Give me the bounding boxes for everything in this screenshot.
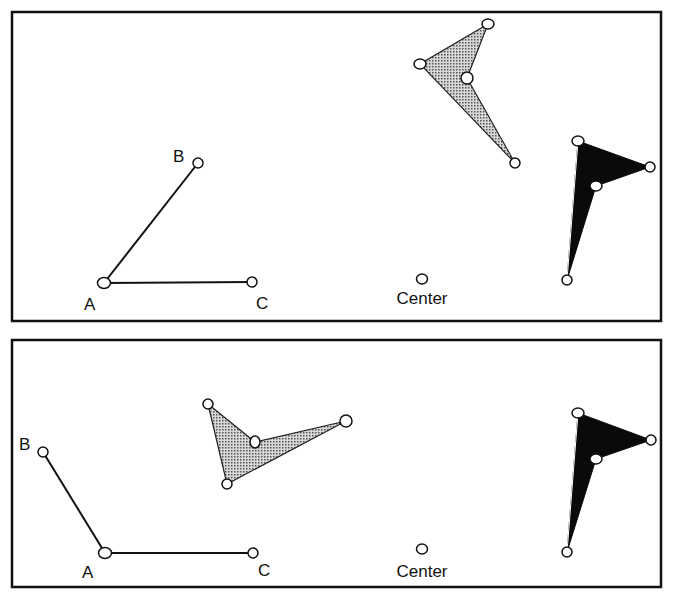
gray-vertex[interactable] — [222, 479, 232, 489]
gray-shape[interactable] — [208, 404, 346, 484]
black-vertex[interactable] — [572, 408, 584, 418]
point-B[interactable] — [38, 447, 48, 457]
label-C: C — [258, 561, 270, 580]
label-A: A — [84, 295, 96, 314]
black-shape[interactable] — [567, 141, 650, 280]
rotation-diagram: A B C Center A B C — [0, 0, 673, 597]
point-A[interactable] — [98, 278, 111, 289]
ray-AC — [104, 282, 252, 283]
bottom-panel: A B C Center — [12, 340, 661, 587]
point-C[interactable] — [247, 277, 257, 287]
gray-vertex[interactable] — [340, 415, 352, 427]
black-shape[interactable] — [567, 413, 651, 552]
gray-vertex[interactable] — [482, 19, 494, 29]
point-A[interactable] — [99, 548, 112, 559]
point-C[interactable] — [248, 548, 258, 558]
gray-vertex[interactable] — [414, 59, 426, 69]
black-vertex[interactable] — [572, 136, 584, 146]
black-vertex[interactable] — [645, 162, 655, 172]
ray-AB — [43, 452, 105, 553]
label-C: C — [256, 294, 268, 313]
black-vertex[interactable] — [562, 547, 572, 557]
black-vertex[interactable] — [590, 181, 602, 191]
ray-AB — [104, 163, 198, 283]
label-A: A — [82, 563, 94, 582]
center-point[interactable] — [417, 544, 428, 554]
center-point[interactable] — [417, 274, 428, 284]
black-vertex[interactable] — [646, 435, 656, 445]
gray-vertex[interactable] — [510, 158, 520, 168]
gray-vertex[interactable] — [203, 399, 213, 409]
label-B: B — [19, 435, 30, 454]
gray-vertex[interactable] — [250, 436, 260, 448]
gray-shape[interactable] — [420, 24, 515, 163]
black-vertex[interactable] — [562, 275, 572, 285]
center-label: Center — [396, 289, 447, 308]
top-panel: A B C Center — [12, 12, 661, 321]
gray-vertex[interactable] — [461, 72, 473, 84]
label-B: B — [173, 147, 184, 166]
black-vertex[interactable] — [590, 454, 602, 464]
center-label: Center — [396, 562, 447, 581]
point-B[interactable] — [193, 158, 203, 168]
